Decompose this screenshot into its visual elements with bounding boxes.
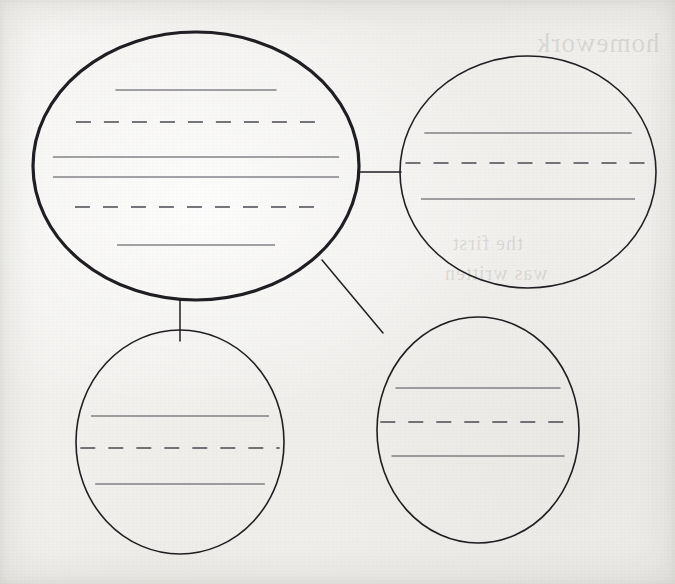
main-bubble[interactable] (33, 32, 359, 300)
connectors-group (180, 172, 401, 341)
bubble-bottom-left-outline[interactable] (76, 330, 284, 554)
worksheet-page: homework the first was written (0, 0, 675, 584)
bubble-bottom-left[interactable] (76, 330, 284, 554)
bubble-bottom-right-outline[interactable] (377, 317, 579, 543)
bubble-top-right-outline[interactable] (400, 56, 656, 288)
bubble-bottom-right[interactable] (377, 317, 579, 543)
main-bubble-outline[interactable] (33, 32, 359, 300)
bubble-top-right[interactable] (400, 56, 656, 288)
connector-main-to-bottom-right[interactable] (322, 260, 383, 333)
bubbles-group (33, 32, 656, 554)
bubble-map-diagram (0, 0, 675, 584)
